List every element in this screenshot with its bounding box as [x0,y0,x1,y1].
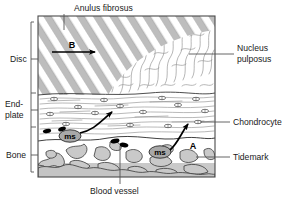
ms-label-1: ms [64,132,76,141]
label-endplate-line2: plate [5,110,24,120]
label-disc: Disc [10,54,27,64]
label-nucleus-line1: Nucleus [237,43,268,53]
label-bone: Bone [6,150,26,160]
label-nucleus-line2: pulposus [237,54,271,64]
arrow-a-label: A [190,141,197,151]
label-tidemark: Tidemark [233,152,269,162]
anatomy-figure: ms ms B A [0,0,305,199]
label-anulus-fibrosus: Anulus fibrosus [74,3,133,13]
label-endplate-line1: End- [5,99,23,109]
diagram-canvas: ms ms B A [0,0,305,199]
arrow-b-label: B [69,40,76,50]
label-blood-vessel: Blood vessel [90,186,139,196]
marrow-space-1: ms [59,130,81,142]
ms-label-2: ms [154,148,166,157]
label-chondrocyte: Chondrocyte [233,117,282,127]
marrow-space-2: ms [149,146,171,158]
